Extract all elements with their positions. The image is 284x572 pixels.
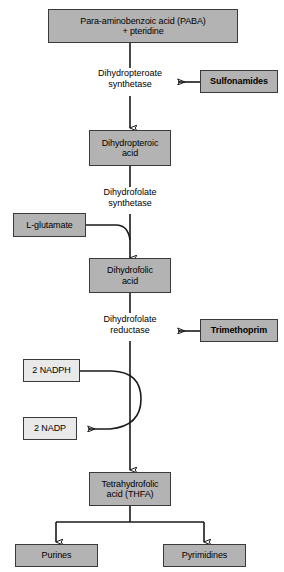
label-dihydropteroate-synthetase: Dihydropteroate synthetase [70,68,190,90]
node-dihydropteroic-acid: Dihydropteroic acid [89,130,171,166]
pathway-diagram: Para-aminobenzoic acid (PABA) + pteridin… [0,0,284,572]
node-l-glutamate: L-glutamate [13,213,86,237]
connector-nadph-to-nadp-loop [80,371,141,429]
node-dihydrofolic-acid: Dihydrofolic acid [89,258,171,293]
node-purines: Purines [15,544,98,567]
label-dihydrofolate-reductase: Dihydrofolate reductase [70,314,190,336]
node-sulfonamides: Sulfonamides [200,70,278,93]
node-nadph: 2 NADPH [23,359,80,382]
node-nadp: 2 NADP [23,417,77,440]
node-paba: Para-aminobenzoic acid (PABA) + pteridin… [48,9,238,43]
label-dihydrofolate-synthetase: Dihydrofolate synthetase [70,187,190,209]
node-trimethoprim: Trimethoprim [200,319,278,342]
connector-lglutamate-feed [86,225,130,240]
node-tetrahydrofolic-acid: Tetrahydrofolic acid (THFA) [89,472,171,506]
node-pyrimidines: Pyrimidines [163,544,246,567]
